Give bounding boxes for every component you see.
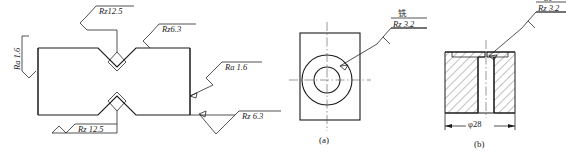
figure-b-caption: (b) <box>474 139 485 149</box>
figure-a-process-label: 铣 <box>398 8 407 18</box>
figure-b-process-label: 铣 <box>543 0 552 2</box>
figure-b-roughness-label: Rz 3.2 <box>537 3 560 13</box>
figure-a-caption: (a) <box>319 135 329 145</box>
figure-a-roughness-label: Rz 3.2 <box>392 19 415 29</box>
callout-right-lower-label: Rz 6.3 <box>241 111 263 121</box>
callout-right-upper-label: Ra 1.6 <box>224 62 248 72</box>
drawing-canvas: Ra 1.6 Rz12.5 Rz6.3 Ra 1.6 Rz 6.3 Rz 12.… <box>0 0 566 154</box>
callout-topright-label: Rz6.3 <box>161 24 181 34</box>
callout-bottom-label: Rz 12.5 <box>77 124 104 134</box>
callout-top-label: Rz12.5 <box>98 6 122 16</box>
callout-left-label: Ra 1.6 <box>12 47 22 71</box>
figure-b-dimension-label: φ28 <box>468 119 481 129</box>
